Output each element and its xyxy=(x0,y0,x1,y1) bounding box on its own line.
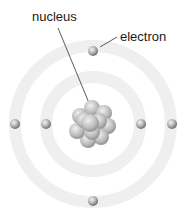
electron-top xyxy=(88,46,98,56)
electron-label: electron xyxy=(120,30,166,43)
nucleus xyxy=(69,100,116,148)
electron-left-inner xyxy=(41,119,51,129)
electron-right-outer xyxy=(167,119,177,129)
electron-right-inner xyxy=(136,119,146,129)
electron-bottom xyxy=(88,196,98,206)
electron-left-outer xyxy=(10,119,20,129)
nucleus-label: nucleus xyxy=(32,10,77,23)
